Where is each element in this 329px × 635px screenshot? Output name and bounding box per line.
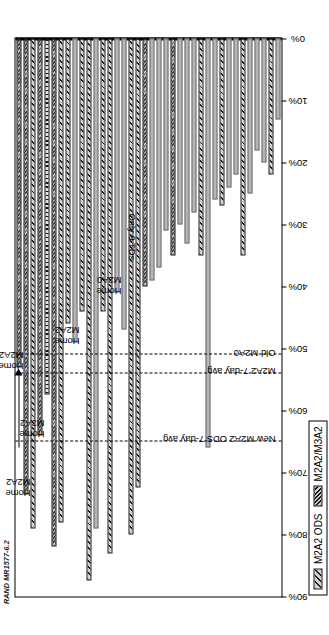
bar bbox=[37, 38, 42, 435]
bar bbox=[51, 38, 56, 546]
bar bbox=[254, 38, 259, 150]
legend-item: M2A2 ODS bbox=[312, 513, 323, 589]
axis-tick-label: 70% bbox=[284, 468, 312, 479]
bar bbox=[65, 38, 70, 323]
bar bbox=[275, 38, 280, 119]
bar bbox=[184, 38, 189, 243]
bar bbox=[170, 38, 175, 255]
bar bbox=[205, 38, 210, 447]
bar-annotation: HomeM2A2 bbox=[54, 324, 79, 346]
bar bbox=[233, 38, 238, 174]
bar bbox=[16, 38, 21, 367]
bar bbox=[135, 38, 140, 488]
legend-label: M2A2 ODS bbox=[312, 513, 323, 564]
axis-tick-label: 60% bbox=[284, 406, 312, 417]
bar bbox=[240, 38, 245, 255]
legend-swatch-icon bbox=[313, 568, 322, 589]
bar-annotation: HomeM2A2 bbox=[5, 476, 30, 498]
bar-annotation: HomeM3A2 bbox=[19, 417, 44, 439]
bar bbox=[86, 38, 91, 581]
bar-annotation: Only 9 TDs bbox=[126, 213, 137, 260]
axis-tick-label: 50% bbox=[284, 344, 312, 355]
callout-arrow-line bbox=[18, 374, 20, 448]
bar-annotation: HomeM2A0 bbox=[96, 274, 121, 296]
bar bbox=[219, 38, 224, 205]
bar bbox=[177, 38, 182, 224]
bar bbox=[226, 38, 231, 187]
bar bbox=[114, 38, 119, 292]
axis-tick-label: 90% bbox=[284, 592, 312, 603]
reference-line-label: Old M2A0 bbox=[233, 347, 275, 358]
bar bbox=[121, 38, 126, 329]
bar bbox=[198, 38, 203, 255]
bar bbox=[128, 38, 133, 534]
legend-item: M2A2/M3A2 bbox=[312, 426, 323, 506]
bar bbox=[30, 38, 35, 528]
callout-arrow-head bbox=[14, 368, 22, 375]
legend: M2A2 ODSM2A2/M3A2 bbox=[308, 420, 327, 595]
bar bbox=[247, 38, 252, 193]
bar bbox=[79, 38, 84, 311]
bar bbox=[163, 38, 168, 230]
bar bbox=[191, 38, 196, 212]
bar bbox=[156, 38, 161, 267]
bar bbox=[72, 38, 77, 342]
plot-area: New M2A2 ODS 7-day avgM2A2 7-day avgOld … bbox=[14, 37, 282, 597]
bar bbox=[142, 38, 147, 286]
figure-root: RAND MR1577-6.2 New M2A2 ODS 7-day avgM2… bbox=[0, 0, 329, 635]
axis-tick-label: 40% bbox=[284, 282, 312, 293]
bar bbox=[261, 38, 266, 162]
bar bbox=[100, 38, 105, 311]
bar bbox=[212, 38, 217, 199]
axis-tick-label: 0% bbox=[284, 34, 312, 45]
bar bbox=[44, 38, 49, 395]
axis-tick-label: 10% bbox=[284, 96, 312, 107]
axis-tick-label: 30% bbox=[284, 220, 312, 231]
legend-label: M2A2/M3A2 bbox=[312, 426, 323, 481]
legend-swatch-icon bbox=[313, 485, 322, 506]
bar bbox=[149, 38, 154, 280]
bar bbox=[268, 38, 273, 174]
chart-canvas: New M2A2 ODS 7-day avgM2A2 7-day avgOld … bbox=[0, 0, 329, 635]
bar bbox=[58, 38, 63, 522]
reference-line-label: New M2A2 ODS 7-day avg bbox=[162, 434, 275, 445]
axis-tick-label: 80% bbox=[284, 530, 312, 541]
reference-line-label: M2A2 7-day avg bbox=[207, 365, 275, 376]
axis-tick-label: 20% bbox=[284, 158, 312, 169]
